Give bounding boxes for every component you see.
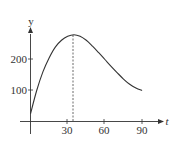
y-axis-label: y: [28, 15, 34, 27]
x-axis-label: t: [165, 115, 169, 127]
y-tick-label-100: 100: [11, 84, 28, 96]
y-axis-arrow-icon: [28, 27, 33, 33]
curve-line: [31, 35, 143, 114]
x-tick-label-60: 60: [99, 124, 111, 136]
x-tick-label-30: 30: [62, 124, 74, 136]
x-axis-arrow-icon: [158, 119, 164, 124]
y-tick-label-200: 200: [11, 53, 28, 65]
line-chart: 30 60 90 200 100 y t: [0, 0, 173, 141]
x-tick-label-90: 90: [137, 124, 149, 136]
